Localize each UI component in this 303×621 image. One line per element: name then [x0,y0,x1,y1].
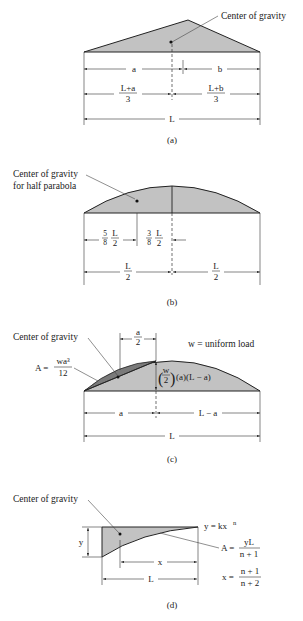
svg-text:a: a [136,327,140,337]
svg-text:(a)(L − a): (a)(L − a) [176,372,211,382]
cg-label-line2: for half parabola [13,181,77,191]
svg-text:L: L [148,574,154,584]
load-label: w = uniform load [188,339,255,349]
svg-text:3: 3 [147,229,151,238]
svg-text:2: 2 [164,375,169,385]
svg-text:L: L [213,261,219,271]
svg-text:L+b: L+b [208,83,224,93]
svg-text:2: 2 [136,337,141,347]
svg-text:8: 8 [147,238,151,247]
svg-text:L: L [156,228,162,238]
svg-text:A =: A = [35,363,48,373]
svg-text:2: 2 [157,238,162,248]
svg-text:5: 5 [103,229,107,238]
svg-text:12: 12 [59,368,68,378]
svg-text:x =: x = [222,572,234,582]
cg-label: Center of gravity [221,11,286,21]
svg-text:8: 8 [103,238,107,247]
svg-text:L: L [169,431,175,441]
cg-label: Center of gravity [13,494,78,504]
svg-text:3: 3 [214,94,219,104]
svg-text:n + 2: n + 2 [241,578,260,588]
caption-a: (a) [167,135,177,145]
svg-text:2: 2 [214,272,219,282]
svg-text:2: 2 [126,272,131,282]
dim-b: b [218,64,223,74]
svg-text:n + 1: n + 1 [240,549,259,559]
centroid-diagram: Center of gravity a b L+a 3 L+b 3 L (a) [0,0,303,621]
panel-c-uniform-load: Center of gravity A = wa³ 12 a 2 w = uni… [13,327,260,464]
svg-text:wa³: wa³ [56,356,69,366]
svg-text:n + 1: n + 1 [241,566,260,576]
panel-b-parabolic-load: Center of gravity for half parabola 5 8 … [13,169,260,307]
svg-text:y = kx: y = kx [204,521,228,531]
spandrel-shape [102,527,198,557]
svg-text:L: L [125,261,131,271]
triangle-shape [84,20,260,52]
svg-text:A =: A = [221,543,234,553]
caption-b: (b) [167,297,178,307]
svg-text:y: y [79,537,84,547]
svg-text:L: L [112,228,118,238]
svg-text:x: x [158,557,163,567]
svg-text:yL: yL [244,537,254,547]
svg-text:3: 3 [126,94,131,104]
cg-label-line1: Center of gravity [13,169,78,179]
panel-a-triangle-load: Center of gravity a b L+a 3 L+b 3 L (a) [84,11,286,145]
svg-text:L+a: L+a [121,83,136,93]
caption-c: (c) [167,454,177,464]
panel-d-power-curve: Center of gravity y = kx n A = yL n + 1 … [13,494,261,610]
cg-label: Center of gravity [13,332,78,342]
dim-a: a [132,64,136,74]
svg-text:2: 2 [113,238,118,248]
svg-text:w: w [163,365,170,375]
caption-d: (d) [167,600,178,610]
svg-text:L − a: L − a [199,408,218,418]
dim-total-L: L [169,114,175,124]
svg-text:a: a [119,408,123,418]
svg-text:n: n [233,519,237,526]
half-parabola-cg-dot [135,199,138,202]
svg-text:): ) [170,370,175,388]
